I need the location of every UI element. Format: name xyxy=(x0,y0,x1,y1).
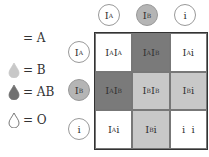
legend-label: = A xyxy=(23,31,46,45)
genotype-cell: IBIB xyxy=(132,72,169,111)
legend-label: = O xyxy=(23,113,47,127)
row-allele: IA xyxy=(68,41,90,63)
legend-item: = B xyxy=(8,62,46,78)
blood-drop-icon xyxy=(8,112,20,128)
column-allele: IA xyxy=(98,4,120,26)
legend-label: = AB xyxy=(23,85,54,99)
genotype-cell: IA i xyxy=(170,33,207,72)
row-allele: IB xyxy=(68,79,90,101)
genotype-cell: IAIB xyxy=(132,33,169,72)
column-allele: i xyxy=(174,4,196,26)
blood-drop-icon xyxy=(8,62,20,78)
legend-label: = B xyxy=(23,63,46,77)
genotype-cell: IB i xyxy=(170,72,207,111)
legend-item: = O xyxy=(8,112,47,128)
legend-item: = A xyxy=(8,30,46,46)
genotype-cell: IB i xyxy=(132,110,169,149)
genotype-cell: i i xyxy=(170,110,207,149)
blood-drop-icon xyxy=(8,84,20,100)
genotype-cell: IAIA xyxy=(95,33,132,72)
legend-item: = AB xyxy=(8,84,54,100)
column-allele: IB xyxy=(136,4,158,26)
genotype-cell: IA i xyxy=(95,110,132,149)
genotype-cell: IAIB xyxy=(95,72,132,111)
blood-drop-icon xyxy=(8,30,20,46)
row-allele: i xyxy=(68,118,90,140)
punnett-square: IAIAIAIBIA iIAIBIBIBIB iIA iIB ii i xyxy=(94,32,208,150)
